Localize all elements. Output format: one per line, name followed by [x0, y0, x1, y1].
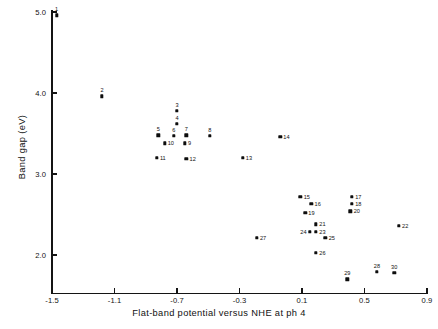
data-point: [392, 271, 395, 274]
y-axis-line: [51, 10, 53, 294]
y-tick-mark: [52, 254, 57, 255]
x-tick-label: 0.1: [297, 296, 308, 305]
y-tick-label: 5.0: [35, 8, 46, 17]
data-point: [255, 236, 258, 239]
data-point: [375, 270, 378, 273]
x-tick-label: -0.7: [170, 296, 184, 305]
data-point: [324, 236, 327, 239]
y-tick-label: 2.0: [35, 251, 46, 260]
x-tick-mark: [301, 288, 302, 293]
x-axis-line: [51, 293, 428, 295]
data-point-label: 11: [160, 155, 166, 161]
data-point-label: 16: [315, 201, 321, 207]
x-tick-label: -1.5: [45, 296, 59, 305]
data-point: [303, 211, 306, 214]
data-point-label: 22: [402, 223, 408, 229]
y-tick-label: 4.0: [35, 89, 46, 98]
data-point-label: 29: [344, 270, 350, 276]
x-tick-label: -1.1: [108, 296, 122, 305]
x-tick-label: -0.3: [233, 296, 247, 305]
data-point: [299, 195, 302, 198]
data-point: [314, 223, 317, 226]
data-point: [163, 142, 166, 145]
scatter-plot-figure: -1.5-1.1-0.7-0.30.10.50.9 2.03.04.05.0 1…: [0, 0, 438, 329]
data-point-label: 21: [319, 221, 325, 227]
data-point: [346, 278, 349, 281]
data-point: [308, 230, 311, 233]
x-tick-mark: [51, 288, 52, 293]
data-point-label: 23: [319, 229, 325, 235]
data-point: [350, 195, 353, 198]
data-point-label: 4: [175, 115, 178, 121]
data-point-label: 3: [175, 102, 178, 108]
data-point-label: 25: [329, 235, 335, 241]
plot-area: -1.5-1.1-0.7-0.30.10.50.9 2.03.04.05.0 1…: [0, 0, 438, 329]
data-point-label: 1: [55, 6, 58, 12]
data-point: [100, 95, 103, 98]
data-point-label: 6: [172, 127, 175, 133]
data-point-label: 2: [100, 87, 103, 93]
data-point: [314, 230, 317, 233]
data-point-label: 5: [157, 126, 160, 132]
y-tick-label: 3.0: [35, 170, 46, 179]
data-point: [208, 134, 211, 137]
data-point: [157, 133, 160, 136]
y-axis-title: Band gap (eV): [17, 82, 27, 212]
data-point: [314, 251, 317, 254]
data-point: [185, 133, 188, 136]
data-point-label: 27: [260, 235, 266, 241]
data-point: [185, 157, 188, 160]
data-point: [310, 202, 313, 205]
data-point-label: 14: [283, 134, 289, 140]
data-point-label: 9: [188, 140, 191, 146]
data-point-label: 17: [355, 194, 361, 200]
data-point: [349, 210, 352, 213]
x-tick-mark: [239, 288, 240, 293]
x-tick-mark: [364, 288, 365, 293]
x-tick-label: 0.5: [359, 296, 370, 305]
data-point-label: 26: [319, 250, 325, 256]
data-point: [183, 142, 186, 145]
data-point-label: 15: [304, 194, 310, 200]
data-point-label: 30: [391, 264, 397, 270]
data-point: [55, 14, 58, 17]
data-point: [175, 122, 178, 125]
x-tick-label: 0.9: [422, 296, 433, 305]
data-point: [278, 135, 281, 138]
data-point-label: 18: [355, 201, 361, 207]
data-point: [241, 156, 244, 159]
data-point: [155, 156, 158, 159]
data-point-label: 10: [168, 140, 174, 146]
data-point-label: 12: [190, 156, 196, 162]
x-tick-mark: [426, 288, 427, 293]
data-point-label: 24: [300, 229, 306, 235]
data-point: [175, 109, 178, 112]
x-tick-mark: [176, 288, 177, 293]
data-point-label: 13: [246, 155, 252, 161]
data-point-label: 7: [185, 126, 188, 132]
data-point: [397, 224, 400, 227]
x-tick-mark: [114, 288, 115, 293]
data-point-label: 28: [374, 263, 380, 269]
data-point: [350, 202, 353, 205]
data-point-label: 20: [354, 208, 360, 214]
data-point: [172, 134, 175, 137]
data-point-label: 19: [308, 210, 314, 216]
y-tick-mark: [52, 92, 57, 93]
y-tick-mark: [52, 173, 57, 174]
data-point-label: 8: [208, 127, 211, 133]
x-axis-title: Flat-band potential versus NHE at ph 4: [0, 308, 438, 318]
